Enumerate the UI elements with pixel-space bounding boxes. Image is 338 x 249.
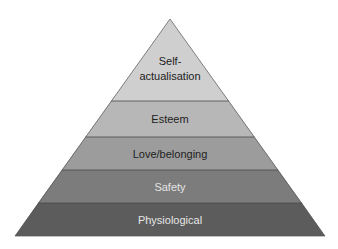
level-label: Safety	[154, 181, 186, 193]
level-label-line2: actualisation	[139, 70, 200, 82]
pyramid-level-esteem: Esteem	[85, 101, 254, 137]
pyramid-level-self-actualisation: Self- actualisation	[111, 19, 229, 101]
maslow-pyramid: Self- actualisation Esteem Love/belongin…	[0, 0, 338, 249]
level-label: Esteem	[151, 113, 188, 125]
level-label: Love/belonging	[133, 148, 208, 160]
level-label: Physiological	[138, 214, 202, 226]
level-label-line1: Self-	[159, 55, 182, 67]
pyramid-level-love-belonging: Love/belonging	[62, 137, 278, 170]
pyramid-level-physiological: Physiological	[15, 203, 325, 236]
pyramid-level-safety: Safety	[38, 170, 302, 203]
